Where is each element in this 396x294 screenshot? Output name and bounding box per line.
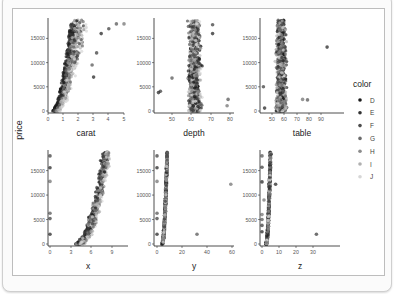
y-axis-label: price xyxy=(14,120,24,140)
legend-dot-icon xyxy=(358,149,362,153)
y-tick-label: 5000 xyxy=(33,217,45,223)
y-tick-label: 5000 xyxy=(245,217,257,223)
points-depth xyxy=(157,19,230,113)
y-tick-label: 5000 xyxy=(139,84,151,90)
x-axis-label: y xyxy=(192,261,197,271)
legend-item-E: E xyxy=(358,109,375,116)
x-tick-label: 0 xyxy=(156,249,159,255)
x-axis-label: x xyxy=(86,261,91,271)
points-table xyxy=(262,18,329,112)
y-tick-label: 10000 xyxy=(31,192,46,198)
x-tick-label: 70 xyxy=(208,116,214,122)
points-carat xyxy=(51,18,126,112)
y-tick-label: 15000 xyxy=(31,168,46,174)
y-tick-label: 15000 xyxy=(137,35,152,41)
legend-dot-icon xyxy=(358,124,362,128)
legend-item-F: F xyxy=(358,122,374,129)
y-tick-label: 5000 xyxy=(139,217,151,223)
legend-dot-icon xyxy=(358,175,362,179)
legend-label: J xyxy=(370,173,373,180)
x-tick-label: 20 xyxy=(179,249,185,255)
y-tick-label: 10000 xyxy=(243,192,258,198)
y-tick-label: 5000 xyxy=(33,84,45,90)
x-tick-label: 60 xyxy=(281,116,287,122)
x-tick-label: 90 xyxy=(318,116,324,122)
y-tick-label: 15000 xyxy=(137,168,152,174)
x-tick-label: 1 xyxy=(62,116,65,122)
x-axis-label: carat xyxy=(77,128,97,138)
legend-dot-icon xyxy=(358,111,362,115)
legend-item-G: G xyxy=(358,135,375,142)
legend-label: H xyxy=(370,148,375,155)
points-x xyxy=(48,150,111,245)
y-tick-label: 15000 xyxy=(243,35,258,41)
x-tick-label: 80 xyxy=(227,116,233,122)
x-tick-label: 0 xyxy=(49,249,52,255)
x-tick-label: 5 xyxy=(123,116,126,122)
y-tick-label: 0 xyxy=(148,241,151,247)
y-tick-label: 15000 xyxy=(31,35,46,41)
legend-title: color xyxy=(353,79,372,89)
y-tick-label: 0 xyxy=(42,108,45,114)
legend-label: D xyxy=(370,97,375,104)
x-tick-label: 60 xyxy=(229,249,235,255)
legend-item-I: I xyxy=(358,161,372,168)
legend-label: G xyxy=(370,135,375,142)
x-tick-label: 20 xyxy=(293,249,299,255)
x-tick-label: 60 xyxy=(188,116,194,122)
x-tick-label: 50 xyxy=(169,116,175,122)
x-tick-label: 0 xyxy=(261,249,264,255)
x-tick-label: 0 xyxy=(47,116,50,122)
panel-z: 0500010000150000102030z xyxy=(243,150,340,271)
scatter-matrix: 050001000015000012345carat05000100001500… xyxy=(0,0,396,294)
y-tick-label: 0 xyxy=(148,108,151,114)
x-tick-label: 2 xyxy=(77,116,80,122)
legend-item-D: D xyxy=(358,97,375,104)
x-tick-label: 3 xyxy=(92,116,95,122)
x-tick-label: 10 xyxy=(276,249,282,255)
x-axis-label: depth xyxy=(183,128,205,138)
y-tick-label: 0 xyxy=(254,108,257,114)
x-tick-label: 9 xyxy=(111,249,114,255)
legend-dot-icon xyxy=(358,98,362,102)
points-z xyxy=(260,150,318,245)
x-tick-label: 30 xyxy=(310,249,316,255)
y-tick-label: 5000 xyxy=(245,84,257,90)
legend-item-H: H xyxy=(358,148,375,155)
x-tick-label: 50 xyxy=(269,116,275,122)
x-axis-label: table xyxy=(293,128,312,138)
y-tick-label: 15000 xyxy=(243,168,258,174)
legend-dot-icon xyxy=(358,162,362,166)
y-tick-label: 10000 xyxy=(31,60,46,66)
panel-y: 0500010000150000204060y xyxy=(137,150,235,271)
x-tick-label: 80 xyxy=(306,116,312,122)
y-tick-label: 10000 xyxy=(243,60,258,66)
panel-x: 0500010000150000369x xyxy=(31,150,128,271)
points-y xyxy=(155,151,232,246)
x-tick-label: 70 xyxy=(294,116,300,122)
panel-carat: 050001000015000012345carat xyxy=(31,18,126,138)
panel-depth: 05000100001500050607080depth xyxy=(137,18,234,138)
x-tick-label: 4 xyxy=(107,116,110,122)
x-tick-label: 3 xyxy=(70,249,73,255)
legend-label: F xyxy=(370,122,374,129)
x-tick-label: 6 xyxy=(90,249,93,255)
x-tick-label: 40 xyxy=(204,249,210,255)
legend-dot-icon xyxy=(358,137,362,141)
y-tick-label: 10000 xyxy=(137,60,152,66)
legend-label: E xyxy=(370,109,375,116)
y-tick-label: 0 xyxy=(254,241,257,247)
legend-label: I xyxy=(370,161,372,168)
legend-item-J: J xyxy=(358,173,373,180)
y-tick-label: 10000 xyxy=(137,192,152,198)
legend: color DEFGHIJ xyxy=(353,79,375,180)
panel-table: 0500010000150005060708090table xyxy=(243,18,344,138)
y-tick-label: 0 xyxy=(42,241,45,247)
x-axis-label: z xyxy=(298,261,302,271)
